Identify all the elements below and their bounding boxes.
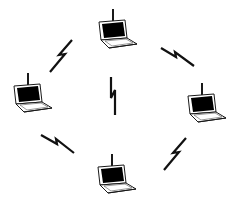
lightning-bolt-icon: [160, 46, 196, 68]
bolt-lower-right: [162, 136, 188, 172]
bolt-lower-left: [40, 133, 76, 155]
laptop-with-antenna-icon: [182, 82, 228, 124]
lightning-bolt-icon: [106, 76, 120, 116]
bolt-upper-left: [48, 38, 74, 74]
lightning-bolt-icon: [162, 136, 188, 172]
laptop-right: [182, 82, 228, 124]
bolt-upper-right: [160, 46, 196, 68]
laptop-bottom: [92, 153, 138, 195]
laptop-left: [8, 72, 54, 114]
lightning-bolt-icon: [48, 38, 74, 74]
laptop-with-antenna-icon: [93, 8, 139, 50]
laptop-top: [93, 8, 139, 50]
laptop-with-antenna-icon: [92, 153, 138, 195]
laptop-with-antenna-icon: [8, 72, 54, 114]
network-diagram: [0, 0, 242, 207]
bolt-center: [106, 76, 120, 116]
lightning-bolt-icon: [40, 133, 76, 155]
